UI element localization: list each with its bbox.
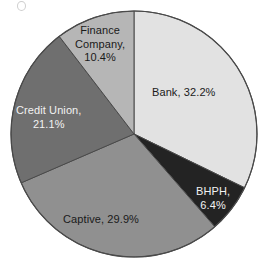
pie-chart-figure: Bank, 32.2% BHPH, 6.4% Captive, 29.9% Cr… <box>0 0 272 275</box>
pie-slice-group <box>11 11 257 257</box>
scan-artifact-mark <box>17 1 26 11</box>
pie-chart-graphic <box>0 0 272 275</box>
